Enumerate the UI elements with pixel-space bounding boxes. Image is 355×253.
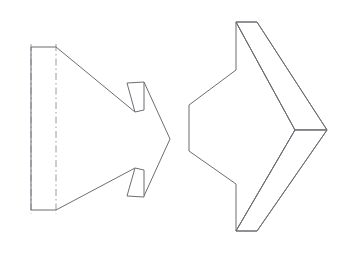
left-orthographic-arrow-view	[31, 44, 170, 214]
arrow-tip-upper-edge	[144, 82, 170, 139]
lower-taper-edge	[56, 168, 135, 210]
lower-barb-notch	[127, 168, 144, 197]
arrow-tip-lower-edge	[144, 139, 170, 196]
technical-drawing	[0, 0, 355, 253]
upper-taper-edge	[56, 47, 135, 112]
right-pictorial-arrow-view	[189, 22, 327, 231]
figure-canvas	[0, 0, 355, 253]
